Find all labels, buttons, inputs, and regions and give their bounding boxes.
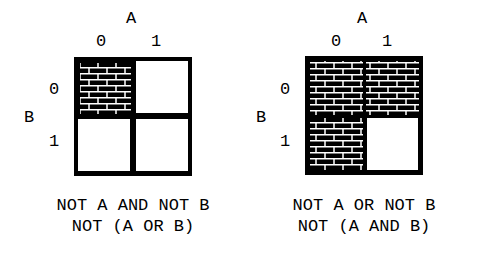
var-b-label: B	[24, 109, 34, 126]
b-value-1: 1	[49, 133, 59, 150]
kmap-grid	[74, 57, 192, 176]
a-value-1: 1	[151, 33, 161, 50]
b-value-0: 0	[280, 81, 290, 98]
var-a-label: A	[126, 10, 136, 27]
caption-line1: NOT A OR NOT B	[254, 196, 474, 216]
b-value-1: 1	[280, 133, 290, 150]
cell-a0-b0-shaded	[78, 61, 133, 116]
cell-a0-b1	[78, 119, 130, 171]
a-value-1: 1	[382, 33, 392, 50]
caption-line2: NOT (A OR B)	[23, 217, 243, 237]
cell-a1-b1	[136, 119, 188, 171]
cell-a1-b0	[136, 61, 188, 113]
b-value-0: 0	[49, 81, 59, 98]
cell-a1-b1	[367, 118, 418, 170]
var-b-label: B	[256, 109, 266, 126]
a-value-0: 0	[331, 33, 341, 50]
a-value-0: 0	[96, 33, 106, 50]
caption-line2: NOT (A AND B)	[254, 217, 474, 237]
kmap-grid	[305, 56, 423, 175]
caption-line1: NOT A AND NOT B	[23, 196, 243, 216]
var-a-label: A	[357, 10, 367, 27]
